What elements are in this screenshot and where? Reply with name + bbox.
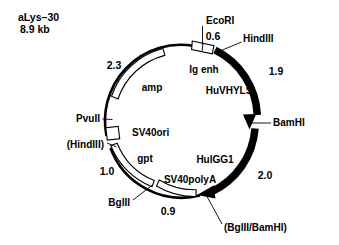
title-line-1: aLys–30 xyxy=(18,11,59,23)
site-label-hindiii-paren: (HindIII) xyxy=(67,139,104,150)
figure-title: aLys–30 8.9 kb xyxy=(18,11,59,35)
plasmid-map-svg: aLys–30 8.9 kb EcoRI HindIII BamHI (BglI… xyxy=(0,0,339,245)
segment-labels: Ig enh HuVHYLS HulGG1 SV40polyA gpt SV40… xyxy=(132,64,253,185)
site-label-ecori: EcoRI xyxy=(206,15,235,26)
pvuii-leader xyxy=(103,119,113,120)
size-label-1-0: 1.0 xyxy=(100,165,115,177)
sv40ori-band xyxy=(106,126,120,140)
size-label-1-9: 1.9 xyxy=(269,65,284,77)
segment-label-hulgg1: HulGG1 xyxy=(196,154,234,165)
segment-label-sv40polya: SV40polyA xyxy=(164,174,216,185)
site-label-bglii-bamhi: (BglII/BamHI) xyxy=(224,222,287,233)
segment-label-amp: amp xyxy=(142,82,163,93)
segment-label-huvhyls: HuVHYLS xyxy=(206,85,253,96)
size-label-2-3: 2.3 xyxy=(107,59,122,71)
hindiii-leader xyxy=(217,42,242,53)
size-label-0-6: 0.6 xyxy=(206,30,221,42)
restriction-site-labels: EcoRI HindIII BamHI (BglII/BamHI) BglII … xyxy=(67,15,305,233)
site-label-bglii: BglII xyxy=(108,197,130,208)
bamhi-arrowhead xyxy=(243,114,256,130)
site-label-bamhi: BamHI xyxy=(273,117,305,128)
huvhyls-arc xyxy=(215,50,257,115)
size-label-0-9: 0.9 xyxy=(161,205,176,217)
plasmid-map-figure: aLys–30 8.9 kb EcoRI HindIII BamHI (BglI… xyxy=(0,0,339,245)
segment-label-sv40ori: SV40ori xyxy=(132,127,169,138)
title-line-2: 8.9 kb xyxy=(20,23,50,35)
segment-label-ig-enh: Ig enh xyxy=(189,64,218,75)
bglii-bamhi-leader xyxy=(207,197,222,225)
site-label-pvuii: PvuII xyxy=(76,113,100,124)
site-label-hindiii: HindIII xyxy=(243,33,274,44)
size-label-2-0: 2.0 xyxy=(258,169,273,181)
segment-label-gpt: gpt xyxy=(137,153,153,164)
